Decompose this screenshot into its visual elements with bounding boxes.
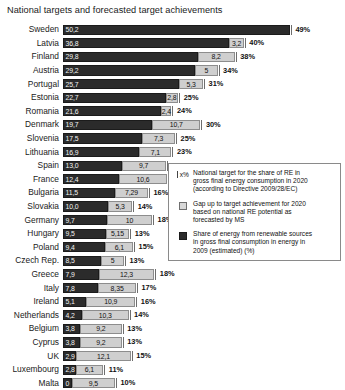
bar-segment-gap: 10,9 (86, 297, 135, 307)
bar-segment-share: 3,8 (63, 324, 80, 334)
target-percent-label: 13% (135, 230, 150, 238)
chart-row: Italy7,88,3517% (0, 281, 345, 295)
row-label-slovakia: Slovakia (0, 202, 63, 211)
bar-value-gap: 7,3 (143, 135, 174, 142)
bar-area: 2,912,1 (63, 351, 133, 361)
bar-area: 09,5 (63, 378, 117, 388)
bar-area: 3,89,2 (63, 324, 124, 334)
bar-segment-share: 0 (63, 378, 72, 388)
bar-segment-share: 8,5 (63, 256, 101, 266)
bar-value-share: 29,2 (64, 67, 79, 74)
bar-area: 11,57,29 (63, 188, 150, 198)
bar-segment-share: 29,8 (63, 52, 198, 62)
bar-value-gap: 9,2 (81, 325, 121, 332)
bar-value-gap: 10,9 (87, 298, 134, 305)
target-percent-label: 23% (177, 148, 192, 156)
target-percent-label: 31% (209, 80, 224, 88)
bar-segment-share: 10,0 (63, 201, 108, 211)
bar-segment-share: 16,9 (63, 147, 139, 157)
target-percent-label: 15% (136, 352, 151, 360)
row-label-greece: Greece (0, 270, 63, 279)
bar-area: 25,75,3 (63, 79, 205, 89)
bar-value-share: 12,4 (64, 176, 79, 183)
bar-segment-share: 12,4 (63, 174, 119, 184)
bar-segment-share: 2,8 (63, 365, 76, 375)
bar-area: 7,912,3 (63, 269, 156, 279)
bar-area: 4,210,3 (63, 310, 131, 320)
bar-segment-gap: 10,3 (82, 310, 129, 320)
bar-value-share: 13,0 (64, 162, 79, 169)
target-marker-icon (136, 297, 137, 307)
chart-row: Lithuania16,97,123% (0, 145, 345, 159)
bar-segment-gap: 8,35 (98, 283, 136, 293)
legend-key-label: x% (177, 171, 189, 178)
legend-item-target: x% National target for the share of RE i… (173, 169, 335, 194)
target-percent-label: 16% (153, 189, 168, 197)
bar-value-share: 9,5 (64, 230, 75, 237)
target-percent-label: 13% (130, 257, 145, 265)
row-label-romania: Romania (0, 107, 63, 116)
bar-area: 22,72,8 (63, 93, 180, 103)
target-marker-icon (134, 242, 135, 252)
row-label-estonia: Estonia (0, 93, 63, 102)
row-label-spain: Spain (0, 161, 63, 170)
bar-area: 9,710 (63, 215, 154, 225)
bar-segment-share: 7,8 (63, 283, 98, 293)
target-marker-icon (291, 25, 292, 35)
bar-value-share: 22,7 (64, 94, 79, 101)
chart-row: Sweden50,249% (0, 23, 345, 37)
row-label-finland: Finland (0, 52, 63, 61)
chart-row: Malta09,510% (0, 376, 345, 390)
legend-text-target: National target for the share of RE in g… (193, 169, 335, 194)
target-marker-icon (116, 378, 117, 388)
bar-area: 50,2 (63, 25, 292, 35)
bar-value-share: 9,4 (64, 244, 75, 251)
bar-value-gap: 10,7 (153, 121, 199, 128)
chart-row: Estonia22,72,825% (0, 91, 345, 105)
bar-value-share: 17,5 (64, 135, 79, 142)
target-percent-label: 25% (184, 94, 199, 102)
bar-segment-share: 4,2 (63, 310, 82, 320)
bar-value-gap: 2,4 (162, 108, 171, 115)
row-label-france: France (0, 175, 63, 184)
bar-value-share: 16,9 (64, 149, 79, 156)
row-label-czech-rep: Czech Rep. (0, 256, 63, 265)
bar-value-gap: 8,35 (99, 285, 135, 292)
target-percent-label: 38% (240, 53, 255, 61)
bar-segment-share: 50,2 (63, 25, 290, 35)
bar-value-share: 7,8 (64, 285, 75, 292)
bar-value-gap: 6,1 (106, 244, 132, 251)
bar-area: 9,46,1 (63, 242, 135, 252)
target-marker-icon (176, 133, 177, 143)
target-marker-icon (172, 106, 173, 116)
target-percent-label: 30% (206, 121, 221, 129)
row-label-germany: Germany (0, 216, 63, 225)
target-marker-icon (133, 201, 134, 211)
bar-segment-share: 7,9 (63, 269, 99, 279)
bar-area: 36,83,2 (63, 38, 246, 48)
row-label-ireland: Ireland (0, 297, 63, 306)
bar-segment-gap: 6,1 (105, 242, 133, 252)
row-label-uk: UK (0, 352, 63, 361)
bar-value-gap: 9,7 (123, 162, 165, 169)
bar-area: 8,55 (63, 256, 126, 266)
bar-segment-gap: 2,8 (166, 93, 179, 103)
legend-item-gap: Gap up to target achievement for 2020 ba… (173, 200, 335, 225)
bar-segment-gap: 9,5 (72, 378, 115, 388)
bar-value-gap: 6,1 (77, 366, 103, 373)
target-marker-icon (236, 52, 237, 62)
legend-line: Gap up to target achievement for 2020 (193, 200, 335, 208)
chart-row: Finland29,88,238% (0, 50, 345, 64)
bar-area: 29,25 (63, 65, 220, 75)
target-percent-label: 40% (249, 39, 264, 47)
bar-segment-gap: 5,3 (179, 79, 203, 89)
target-percent-label: 13% (127, 325, 142, 333)
target-marker-icon (130, 229, 131, 239)
bar-area: 10,05,3 (63, 201, 134, 211)
bar-value-share: 8,5 (64, 257, 75, 264)
legend-swatch (179, 202, 187, 210)
legend-text-share: Share of energy from renewable sources i… (193, 230, 335, 255)
bar-value-share: 36,8 (64, 40, 79, 47)
bar-area: 16,97,1 (63, 147, 173, 157)
target-marker-icon (219, 65, 220, 75)
